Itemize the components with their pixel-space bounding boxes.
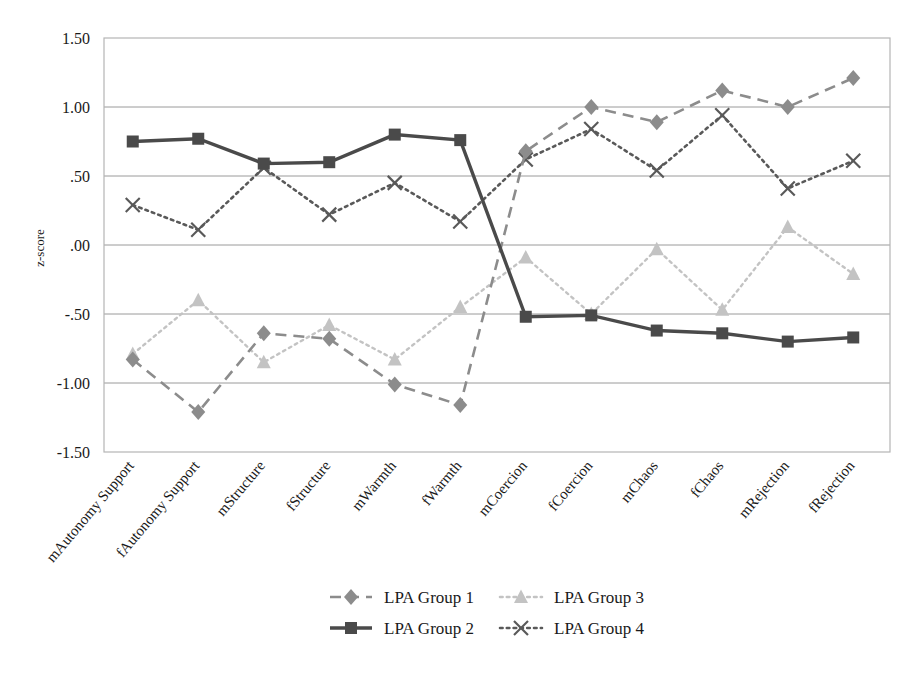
data-point-square [345, 622, 357, 634]
data-point-square [127, 136, 139, 148]
legend-label: LPA Group 3 [554, 588, 644, 607]
y-axis-tick-label: 1.50 [62, 30, 90, 47]
data-point-square [585, 309, 597, 321]
data-point-square [258, 158, 270, 170]
data-point-square [651, 325, 663, 337]
legend-label: LPA Group 1 [384, 588, 474, 607]
data-point-square [782, 336, 794, 348]
y-axis-tick-label: 1.00 [62, 99, 90, 116]
data-point-square [847, 331, 859, 343]
y-axis-tick-label: -1.00 [57, 375, 90, 392]
y-axis-tick-label: -1.50 [57, 444, 90, 461]
data-point-square [520, 311, 532, 323]
legend-item-1[interactable]: LPA Group 1 [330, 588, 474, 607]
data-point-square [192, 133, 204, 145]
data-point-square [716, 327, 728, 339]
data-point-square [454, 134, 466, 146]
y-axis-tick-label: .50 [70, 168, 90, 185]
line-chart-figure: z-score 1.501.00.50.00-.50-1.00-1.50 mAu… [0, 0, 914, 680]
y-axis-title-label: z-score [32, 229, 47, 267]
legend-label: LPA Group 4 [554, 619, 645, 638]
y-axis-tick-label: -.50 [65, 306, 90, 323]
data-point-square [389, 129, 401, 141]
data-point-square [323, 156, 335, 168]
legend-label: LPA Group 2 [384, 619, 474, 638]
y-axis-tick-label: .00 [70, 237, 90, 254]
y-axis-title: z-score [32, 229, 47, 267]
